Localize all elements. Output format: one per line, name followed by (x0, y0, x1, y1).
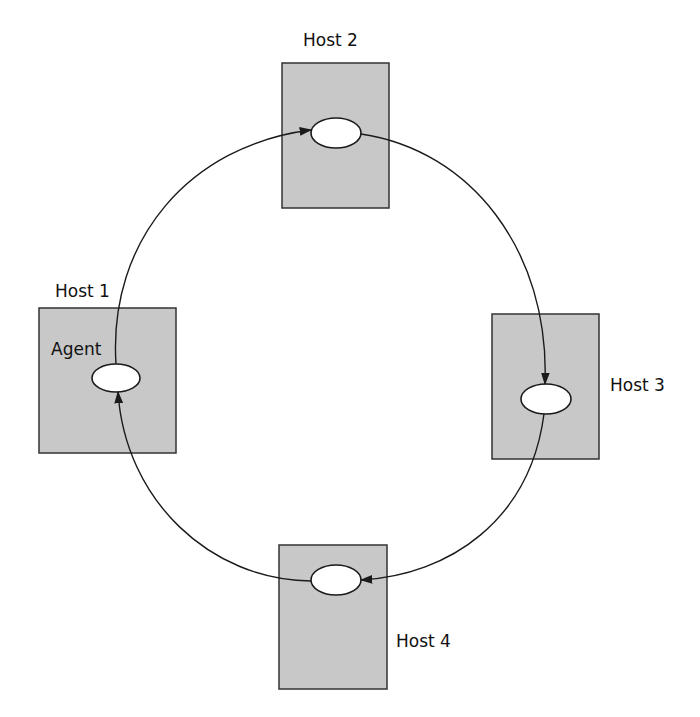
agent-label: Agent (51, 339, 102, 359)
host-1-agent (92, 364, 140, 392)
agent-migration-diagram: Host 1 Agent Host 2 Host 3 Host 4 (0, 0, 700, 717)
host-4-agent (311, 565, 361, 595)
host-2-label: Host 2 (303, 30, 358, 50)
host-3: Host 3 (492, 314, 665, 459)
host-2: Host 2 (282, 30, 389, 208)
host-3-agent (521, 384, 571, 414)
host-1: Host 1 Agent (39, 281, 176, 453)
host-1-label: Host 1 (55, 281, 110, 301)
host-2-agent (311, 118, 361, 148)
host-4-label: Host 4 (396, 631, 451, 651)
host-3-label: Host 3 (610, 375, 665, 395)
